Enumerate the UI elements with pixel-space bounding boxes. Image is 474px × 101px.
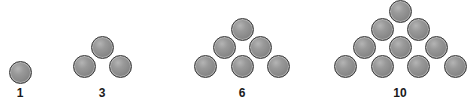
group-count-label: 3 [82,86,122,100]
group-count-label: 1 [0,86,40,100]
ball-icon [231,18,254,41]
ball-icon [371,18,394,41]
ball-icon [213,36,236,59]
ball-icon [109,55,132,78]
ball-icon [407,55,430,78]
ball-icon [425,36,448,59]
triangular-numbers-diagram: 1 3 6 10 [0,0,474,101]
ball-icon [389,36,412,59]
ball-icon [444,55,467,78]
ball-icon [91,36,114,59]
ball-icon [267,55,290,78]
ball-icon [407,18,430,41]
ball-icon [353,36,376,59]
ball-icon [73,55,96,78]
group-count-label: 6 [222,86,262,100]
ball-icon [371,55,394,78]
ball-icon [194,55,217,78]
ball-icon [334,55,357,78]
ball-icon [389,0,412,23]
ball-icon [249,36,272,59]
ball-icon [231,55,254,78]
ball-icon [9,61,32,84]
group-count-label: 10 [380,86,420,100]
